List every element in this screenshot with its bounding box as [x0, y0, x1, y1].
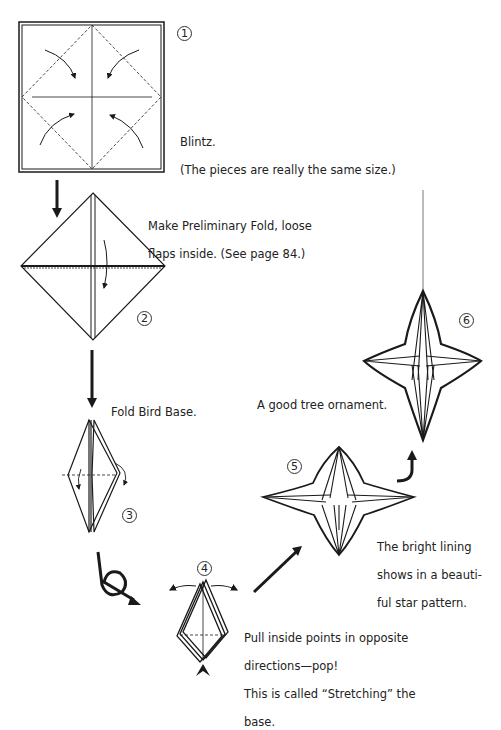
down-arrow-icon — [52, 180, 62, 218]
step-4-diagram — [170, 580, 237, 662]
step-3-diagram — [62, 420, 126, 532]
caption-line: This is called “Stretching” the — [244, 687, 416, 701]
caption-line: base. — [244, 715, 416, 729]
step-number-5: 5 — [287, 459, 302, 474]
caption-line: (The pieces are really the same size.) — [180, 163, 396, 177]
caption-step-6: A good tree ornament. — [257, 398, 387, 412]
push-arrowhead-icon — [196, 664, 210, 676]
fold-arrow-icon — [78, 469, 81, 489]
up-hook-arrow-icon — [397, 450, 417, 481]
caption-step-3: Fold Bird Base. — [111, 405, 197, 419]
turn-over-icon — [98, 552, 141, 605]
step-1-diagram — [19, 22, 164, 172]
step-number-2: 2 — [137, 311, 152, 326]
caption-line: Blintz. — [180, 135, 396, 149]
caption-step-1: Blintz. (The pieces are really the same … — [180, 121, 396, 191]
step-number-4: 4 — [197, 561, 212, 576]
step-number-3: 3 — [122, 508, 137, 523]
caption-line: directions—pop! — [244, 659, 416, 673]
diagonal-arrow-icon — [254, 546, 302, 592]
caption-step-4: Pull inside points in opposite direction… — [244, 617, 416, 730]
caption-line: Pull inside points in opposite — [244, 631, 416, 645]
caption-step-2: Make Preliminary Fold, loose flaps insid… — [148, 205, 312, 275]
fold-arrow-icon — [40, 50, 143, 148]
caption-step-5: The bright lining shows in a beauti- ful… — [377, 526, 482, 624]
down-arrow-icon — [87, 350, 97, 408]
caption-line: Make Preliminary Fold, loose — [148, 219, 312, 233]
step-number-6: 6 — [459, 313, 474, 328]
caption-line: shows in a beauti- — [377, 568, 482, 582]
fold-arrow-icon — [104, 240, 107, 288]
caption-line: The bright lining — [377, 540, 482, 554]
step-number-1: 1 — [177, 26, 192, 41]
caption-line: flaps inside. (See page 84.) — [148, 247, 312, 261]
caption-line: ful star pattern. — [377, 596, 482, 610]
